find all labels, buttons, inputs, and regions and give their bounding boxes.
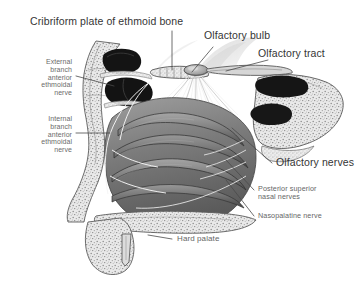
label-external-branch-anterior-ethmoidal-nerve: External branch anterior ethmoidal nerve [8, 58, 72, 97]
olfactory-bulb [184, 65, 208, 76]
label-cribriform-plate: Cribriform plate of ethmoid bone [30, 16, 183, 28]
label-posterior-superior-nasal-nerves: Posterior superior nasal nerves [258, 185, 317, 201]
label-olfactory-bulb: Olfactory bulb [204, 30, 270, 42]
label-internal-branch-anterior-ethmoidal-nerve: Internal branch anterior ethmoidal nerve [8, 115, 72, 154]
anatomy-figure: Cribriform plate of ethmoid bone Olfacto… [0, 0, 361, 283]
label-olfactory-nerves: Olfactory nerves [276, 157, 354, 169]
leader-hard-palate [148, 235, 172, 239]
label-olfactory-tract: Olfactory tract [258, 48, 325, 60]
frontal-sinus [103, 49, 142, 74]
label-hard-palate: Hard palate [177, 235, 219, 244]
pterygoid-cavity [250, 104, 292, 126]
label-nasopalatine-nerve: Nasopalatine nerve [258, 212, 322, 220]
